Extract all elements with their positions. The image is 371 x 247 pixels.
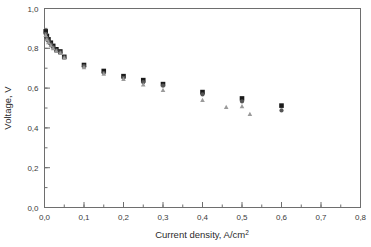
- y-axis-tick-labels: 0,00,20,40,60,81,0: [27, 5, 39, 213]
- data-points-layer: [43, 29, 283, 116]
- y-tick-label: 0,4: [27, 124, 39, 133]
- chart-canvas: 0,00,10,20,30,40,50,60,70,8 0,00,20,40,6…: [0, 0, 371, 247]
- data-point-circle: [240, 99, 244, 103]
- data-point-circle: [279, 108, 283, 112]
- x-tick-label: 0,2: [118, 213, 130, 222]
- data-point-square: [279, 103, 284, 108]
- series-square: [43, 29, 283, 108]
- data-point-circle: [161, 84, 165, 88]
- data-point-circle: [200, 92, 204, 96]
- y-tick-label: 0,0: [27, 204, 39, 213]
- plot-frame: [45, 9, 361, 208]
- data-point-triangle: [224, 105, 229, 109]
- y-tick-label: 0,8: [27, 44, 39, 53]
- y-axis-title: Voltage, V: [2, 86, 13, 130]
- x-tick-label: 0,5: [236, 213, 248, 222]
- x-tick-label: 0,6: [276, 213, 288, 222]
- data-point-triangle: [200, 98, 205, 102]
- series-circle: [44, 32, 284, 113]
- data-point-triangle: [248, 112, 253, 116]
- polarization-curve-figure: 0,00,10,20,30,40,50,60,70,8 0,00,20,40,6…: [0, 0, 371, 247]
- x-tick-label: 0,0: [39, 213, 51, 222]
- data-point-triangle: [161, 88, 166, 92]
- x-tick-label: 0,4: [197, 213, 209, 222]
- y-tick-label: 1,0: [27, 5, 39, 14]
- x-axis-tick-labels: 0,00,10,20,30,40,50,60,70,8: [39, 213, 367, 222]
- series-triangle: [43, 33, 252, 116]
- y-tick-label: 0,6: [27, 84, 39, 93]
- x-tick-label: 0,1: [78, 213, 90, 222]
- x-tick-label: 0,8: [355, 213, 367, 222]
- axis-ticks: [45, 9, 361, 208]
- y-tick-label: 0,2: [27, 164, 39, 173]
- x-axis-title: Current density, A/cm2: [155, 229, 249, 240]
- data-point-triangle: [240, 104, 245, 108]
- x-tick-label: 0,7: [315, 213, 327, 222]
- x-tick-label: 0,3: [157, 213, 169, 222]
